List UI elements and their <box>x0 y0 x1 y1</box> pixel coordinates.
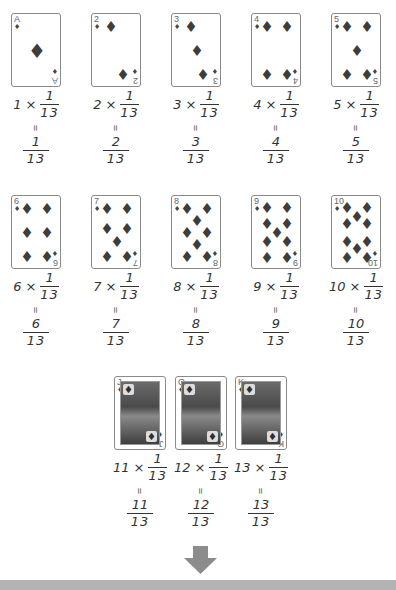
result-fraction: 713 <box>71 317 161 348</box>
fraction-numerator: 12 <box>188 498 214 512</box>
result-fraction: 813 <box>151 317 241 348</box>
fraction-denominator: 13 <box>40 288 59 302</box>
result-fraction: 513 <box>311 135 396 166</box>
multiplier: 9 <box>253 279 261 294</box>
fraction-denominator: 13 <box>103 152 129 166</box>
diamond-icon: ♦ <box>280 234 293 249</box>
fraction-denominator: 13 <box>360 106 379 120</box>
fraction-denominator: 13 <box>269 469 288 483</box>
diamond-icon: ♦ <box>120 249 133 264</box>
multiplier: 13 <box>234 460 251 475</box>
fraction-denominator: 13 <box>343 152 369 166</box>
fraction-denominator: 13 <box>200 288 219 302</box>
fraction: 913 <box>263 317 289 348</box>
diamond-icon: ♦ <box>28 44 46 59</box>
unit-fraction: 113 <box>40 271 59 302</box>
fraction-numerator: 1 <box>40 89 59 103</box>
diamond-icon: ♦ <box>146 431 157 442</box>
fraction-denominator: 13 <box>120 106 139 120</box>
face-card-illustration: ♦♦ <box>241 381 281 445</box>
multiplier: 1 <box>13 97 21 112</box>
multiplier: 11 <box>113 460 130 475</box>
multiplier: 5 <box>333 97 341 112</box>
diamond-icon: ♦ <box>260 251 273 266</box>
fraction-denominator: 13 <box>280 288 299 302</box>
unit-fraction: 113 <box>200 271 219 302</box>
diamond-icon: ♦ <box>340 217 353 232</box>
fraction-numerator: 8 <box>183 317 209 331</box>
diamond-icon: ♦ <box>132 69 138 76</box>
diamond-icon: ♦ <box>20 202 33 217</box>
fraction: 313 <box>183 135 209 166</box>
fraction-numerator: 1 <box>200 271 219 285</box>
result-fraction: 1013 <box>311 317 396 348</box>
diamond-icon: ♦ <box>123 384 134 395</box>
fraction-numerator: 1 <box>280 89 299 103</box>
card-rank-label-inverted: 5 <box>373 76 378 85</box>
card-rank-label-inverted: 8 <box>213 258 218 267</box>
fraction-denominator: 13 <box>183 334 209 348</box>
diamond-icon: ♦ <box>267 431 278 442</box>
diamond-icon: ♦ <box>14 24 20 31</box>
diamond-icon: ♦ <box>104 20 117 35</box>
fraction: 413 <box>263 135 289 166</box>
diamond-icon: ♦ <box>244 384 255 395</box>
diamond-icon: ♦ <box>360 251 373 266</box>
result-fraction: 1313 <box>216 498 306 529</box>
fraction-denominator: 13 <box>127 515 153 529</box>
fraction-denominator: 13 <box>23 334 49 348</box>
fraction-denominator: 13 <box>188 515 214 529</box>
fraction-numerator: 1 <box>120 271 139 285</box>
multiplier: 6 <box>13 279 21 294</box>
unit-fraction: 113 <box>40 89 59 120</box>
diamond-icon: ♦ <box>340 67 353 82</box>
diamond-icon: ♦ <box>260 20 273 35</box>
card-rank-label-inverted: 7 <box>133 258 138 267</box>
diamond-icon: ♦ <box>174 24 180 31</box>
fraction-denominator: 13 <box>280 106 299 120</box>
result-fraction: 413 <box>231 135 321 166</box>
multiplier: 8 <box>173 279 181 294</box>
diamond-icon: ♦ <box>184 384 195 395</box>
diamond-icon: ♦ <box>360 217 373 232</box>
diamond-icon: ♦ <box>280 67 293 82</box>
diamond-icon: ♦ <box>340 251 353 266</box>
multiplier: 4 <box>253 97 261 112</box>
fraction-numerator: 1 <box>364 271 383 285</box>
fraction: 713 <box>103 317 129 348</box>
fraction-denominator: 13 <box>364 288 383 302</box>
diamond-icon: ♦ <box>207 431 218 442</box>
fraction: 613 <box>23 317 49 348</box>
diamond-icon: ♦ <box>280 251 293 266</box>
face-card-illustration: ♦♦ <box>181 381 221 445</box>
unit-fraction: 113 <box>269 452 288 483</box>
diamond-icon: ♦ <box>94 24 100 31</box>
card-rank-label-inverted: A <box>52 76 58 85</box>
diamond-icon: ♦ <box>20 249 33 264</box>
diamond-icon: ♦ <box>52 69 58 76</box>
bottom-bar <box>0 580 396 590</box>
playing-card-4: 4♦4♦♦♦♦♦ <box>251 13 301 87</box>
diamond-icon: ♦ <box>350 44 363 59</box>
diamond-icon: ♦ <box>360 20 373 35</box>
result-fraction: 113 <box>0 135 81 166</box>
fraction: 813 <box>183 317 209 348</box>
multiplier: 7 <box>93 279 101 294</box>
card-rank-label-inverted: 2 <box>133 76 138 85</box>
diamond-icon: ♦ <box>100 202 113 217</box>
playing-card-7: 7♦7♦♦♦♦♦♦♦♦ <box>91 195 141 269</box>
fraction-numerator: 1 <box>360 89 379 103</box>
fraction: 513 <box>343 135 369 166</box>
playing-card-5: 5♦5♦♦♦♦♦♦ <box>331 13 381 87</box>
unit-fraction: 113 <box>280 271 299 302</box>
unit-fraction: 113 <box>280 89 299 120</box>
diamond-icon: ♦ <box>260 67 273 82</box>
unit-fraction: 113 <box>200 89 219 120</box>
multiplier: 12 <box>174 460 191 475</box>
fraction-numerator: 6 <box>23 317 49 331</box>
result-fraction: 913 <box>231 317 321 348</box>
unit-fraction: 113 <box>364 271 383 302</box>
result-fraction: 613 <box>0 317 81 348</box>
diamond-icon: ♦ <box>190 44 203 59</box>
fraction-numerator: 13 <box>248 498 274 512</box>
